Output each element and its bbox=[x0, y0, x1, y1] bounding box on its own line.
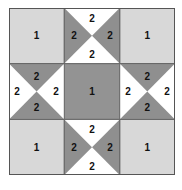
label: 2 bbox=[34, 102, 40, 113]
quilt-block-svg: 1 1 1 1 1 2 2 2 2 2 2 2 2 bbox=[9, 8, 175, 175]
corner-square-tl: 1 bbox=[9, 8, 64, 64]
label: 2 bbox=[34, 71, 40, 82]
quilt-block: 1 1 1 1 1 2 2 2 2 2 2 2 2 bbox=[9, 8, 175, 175]
edge-cell-top: 2 2 2 2 bbox=[64, 8, 119, 64]
label: 1 bbox=[34, 30, 40, 41]
label: 2 bbox=[164, 86, 170, 97]
label: 2 bbox=[89, 13, 95, 24]
label: 2 bbox=[89, 161, 95, 172]
label: 2 bbox=[125, 86, 131, 97]
label: 2 bbox=[145, 102, 151, 113]
label: 1 bbox=[145, 30, 151, 41]
edge-cell-left: 2 2 2 2 bbox=[9, 64, 64, 120]
label: 1 bbox=[145, 142, 151, 153]
label: 1 bbox=[34, 142, 40, 153]
edge-cell-bottom: 2 2 2 2 bbox=[64, 119, 119, 175]
label: 2 bbox=[89, 124, 95, 135]
label: 2 bbox=[107, 142, 113, 153]
corner-square-tr: 1 bbox=[120, 8, 175, 64]
corner-square-bl: 1 bbox=[9, 119, 64, 175]
label: 2 bbox=[71, 30, 77, 41]
center-square: 1 bbox=[64, 64, 119, 120]
label: 2 bbox=[71, 142, 77, 153]
label: 2 bbox=[14, 86, 20, 97]
label: 1 bbox=[89, 86, 95, 97]
label: 2 bbox=[107, 30, 113, 41]
label: 2 bbox=[89, 49, 95, 60]
corner-square-br: 1 bbox=[120, 119, 175, 175]
label: 2 bbox=[53, 86, 59, 97]
label: 2 bbox=[145, 71, 151, 82]
edge-cell-right: 2 2 2 2 bbox=[120, 64, 175, 120]
